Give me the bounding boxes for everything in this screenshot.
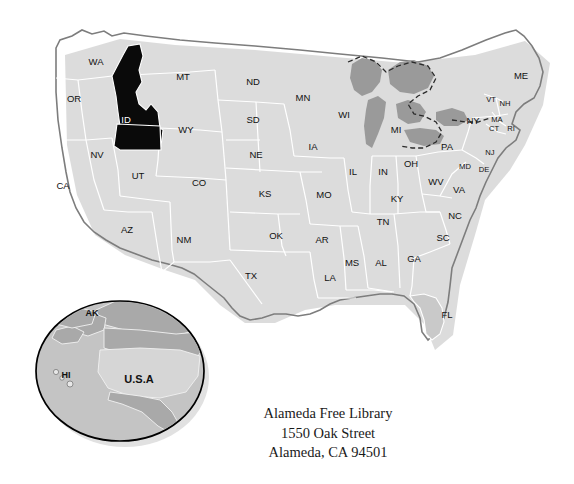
state-label-ct: CT: [489, 124, 499, 133]
state-label-co: CO: [192, 177, 206, 188]
state-label-or: OR: [67, 93, 81, 104]
inset-label-usa: U.S.A: [124, 373, 153, 385]
state-label-ma: MA: [491, 115, 503, 124]
state-label-nv: NV: [90, 149, 104, 160]
inset-label-hi: HI: [62, 370, 71, 380]
state-label-oh: OH: [404, 158, 418, 169]
state-label-mt: MT: [176, 71, 190, 82]
state-label-ut: UT: [132, 170, 145, 181]
state-label-va: VA: [453, 184, 466, 195]
state-label-ky: KY: [391, 193, 404, 204]
state-label-mo: MO: [316, 189, 331, 200]
state-label-nd: ND: [246, 76, 260, 87]
state-label-nm: NM: [177, 234, 192, 245]
address-line-street: 1550 Oak Street: [231, 424, 425, 444]
state-label-ca: CA: [56, 180, 70, 191]
state-label-ne: NE: [249, 149, 262, 160]
state-label-nj: NJ: [485, 148, 494, 157]
state-label-vt: VT: [486, 95, 496, 104]
state-label-in: IN: [378, 166, 388, 177]
state-label-de: DE: [479, 165, 490, 174]
state-label-al: AL: [375, 257, 387, 268]
state-label-sd: SD: [246, 114, 259, 125]
state-label-id: ID: [121, 114, 131, 125]
state-label-ny: NY: [466, 115, 480, 126]
state-label-il: IL: [349, 166, 357, 177]
state-label-ms: MS: [345, 257, 359, 268]
state-label-ri: RI: [507, 124, 515, 133]
address-line-city: Alameda, CA 94501: [231, 443, 425, 463]
state-label-wy: WY: [178, 124, 194, 135]
state-label-mn: MN: [296, 92, 311, 103]
state-label-mi: MI: [391, 124, 402, 135]
state-label-nc: NC: [448, 210, 462, 221]
state-label-ar: AR: [315, 234, 328, 245]
state-label-pa: PA: [441, 141, 454, 152]
state-label-wi: WI: [338, 109, 350, 120]
inset-label-ak: AK: [86, 308, 99, 318]
state-label-fl: FL: [441, 309, 452, 320]
state-label-wv: WV: [428, 176, 444, 187]
state-label-nh: NH: [500, 99, 511, 108]
state-label-sc: SC: [436, 232, 449, 243]
state-label-ga: GA: [407, 253, 421, 264]
state-label-wa: WA: [89, 56, 105, 67]
state-label-tn: TN: [377, 216, 390, 227]
address-block: Alameda Free Library 1550 Oak Street Ala…: [231, 404, 425, 463]
state-label-ia: IA: [309, 141, 319, 152]
state-label-la: LA: [324, 272, 336, 283]
state-label-az: AZ: [121, 224, 133, 235]
state-label-tx: TX: [245, 270, 258, 281]
inset-globe: AKHIU.S.A: [36, 294, 222, 447]
state-idaho-body: [114, 124, 161, 150]
state-label-md: MD: [459, 162, 471, 171]
state-label-ok: OK: [269, 230, 283, 241]
state-label-ks: KS: [259, 188, 272, 199]
address-line-library: Alameda Free Library: [231, 404, 425, 424]
state-label-me: ME: [514, 70, 528, 81]
